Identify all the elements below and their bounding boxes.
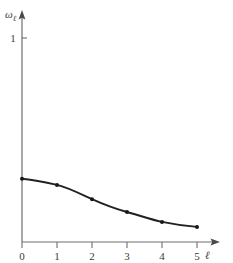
x-tick-label-2: 2	[89, 250, 95, 262]
y-axis-title: ωℓ	[5, 8, 17, 23]
data-point-marker	[195, 225, 199, 229]
data-point-marker	[90, 197, 94, 201]
data-point-marker	[160, 220, 164, 224]
x-tick-label-4: 4	[159, 250, 165, 262]
x-tick-label-5: 5	[194, 250, 200, 262]
data-series-omega-ell	[20, 177, 199, 229]
chart-figure: 1 0 1 2 3 4 5 ωℓ ℓ	[0, 0, 233, 263]
data-point-marker	[20, 177, 24, 181]
x-tick-label-0: 0	[19, 250, 25, 262]
x-tick-label-3: 3	[124, 250, 130, 262]
data-point-marker	[55, 183, 59, 187]
x-axis-title: ℓ	[205, 249, 210, 261]
x-axis-group	[22, 239, 220, 248]
x-tick-label-1: 1	[54, 250, 60, 262]
data-curve	[22, 179, 197, 227]
y-axis-group	[19, 10, 27, 242]
y-tick-label-1: 1	[10, 32, 16, 44]
plot-canvas: 1 0 1 2 3 4 5 ωℓ ℓ	[0, 0, 233, 263]
data-point-marker	[125, 210, 129, 214]
y-axis-title-subscript: ℓ	[13, 14, 17, 23]
